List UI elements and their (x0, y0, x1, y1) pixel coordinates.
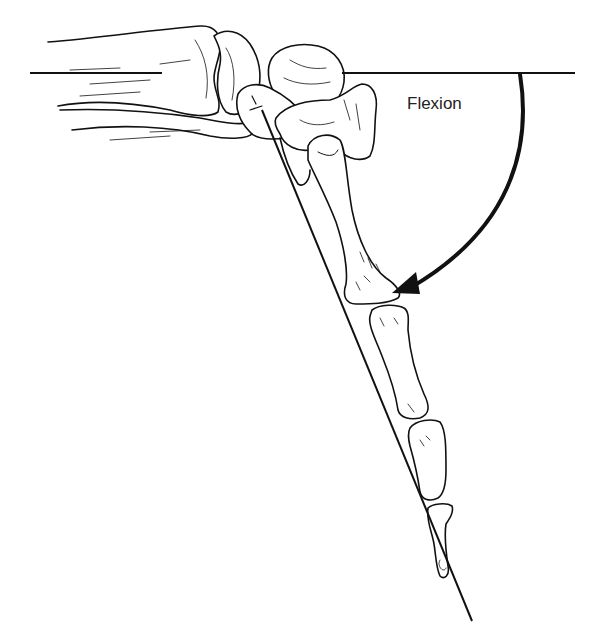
metacarpal-bone (308, 135, 400, 304)
middle-phalanx (409, 420, 447, 500)
arrowhead-icon (392, 272, 420, 294)
flexion-diagram: Flexion (0, 0, 599, 641)
forearm-soft-contour (72, 127, 252, 140)
flexion-label: Flexion (407, 94, 462, 114)
diagram-canvas (0, 0, 599, 641)
limb-axis-line (262, 110, 472, 621)
proximal-phalanx (370, 305, 428, 419)
